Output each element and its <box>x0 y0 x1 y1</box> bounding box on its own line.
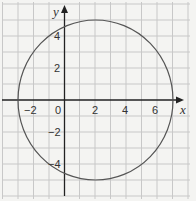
circle-graph: x y 0 −2 2 4 6 4 2 −2 −4 <box>0 0 196 201</box>
y-tick-2: 2 <box>54 62 60 74</box>
x-axis-label: x <box>179 102 186 117</box>
y-axis-arrow-icon <box>61 5 68 13</box>
x-tick-neg2: −2 <box>24 104 37 116</box>
axes <box>2 10 180 196</box>
y-tick-neg2: −2 <box>48 126 61 138</box>
x-tick-6: 6 <box>152 104 158 116</box>
origin-label: 0 <box>55 104 61 116</box>
y-axis-label: y <box>51 4 59 19</box>
x-tick-4: 4 <box>122 104 128 116</box>
y-tick-4: 4 <box>54 30 60 42</box>
y-tick-neg4: −4 <box>48 158 61 170</box>
x-tick-2: 2 <box>92 104 98 116</box>
